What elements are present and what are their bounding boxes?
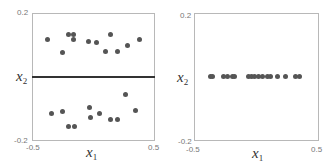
x-tick-left-right: -0.5	[186, 146, 200, 154]
data-point	[275, 74, 280, 79]
y-axis-label-sub-right: 2	[184, 77, 189, 87]
y-axis-label-right: x2	[177, 70, 188, 87]
right-chart-panel: 0.2 -0.2 -0.5 0.5 x2 x1	[0, 0, 334, 166]
x-tick-right-right: 0.5	[311, 146, 322, 154]
x-axis-label-main-right: x	[252, 145, 259, 161]
y-tick-top-right: 0.2	[180, 12, 191, 20]
x-axis-label-sub-right: 1	[259, 153, 264, 163]
data-point	[260, 74, 265, 79]
y-axis-label-main-right: x	[177, 69, 184, 85]
x-axis-label-right: x1	[252, 146, 263, 163]
data-point	[297, 74, 302, 79]
